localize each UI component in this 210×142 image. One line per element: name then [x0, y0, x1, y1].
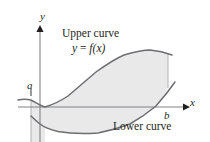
bound-b-label: b [164, 110, 170, 121]
upper-curve-label: Upper curve [62, 28, 119, 40]
x-axis-arrow-icon [183, 103, 190, 110]
y-axis-label: y [40, 11, 45, 22]
figure-canvas [0, 0, 210, 142]
area-between-curves-figure: Upper curve y = f(x) Lower curve y x a b [0, 0, 210, 142]
x-axis-label: x [190, 97, 195, 108]
function-equation-label: y = f(x) [72, 43, 105, 55]
bound-a-label: a [27, 80, 33, 91]
equation-equals: = [77, 42, 89, 54]
y-axis-arrow-icon [36, 25, 43, 32]
equation-argument: (x) [93, 42, 106, 54]
lower-curve-label: Lower curve [113, 121, 171, 133]
